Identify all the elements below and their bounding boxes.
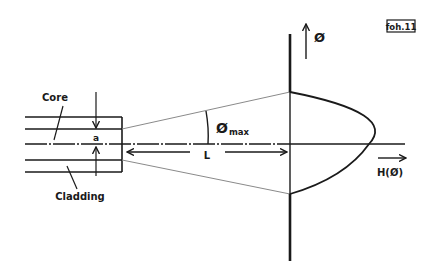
cladding-leader-line (67, 166, 77, 189)
cone-upper-ray (122, 92, 290, 129)
core-leader-line (54, 106, 63, 140)
horizontal-axis-label: H(Ø) (377, 167, 403, 178)
figure-tag: foh.11 (386, 20, 417, 32)
distance-label: L (204, 150, 211, 161)
vertical-axis-label: Ø (314, 30, 325, 45)
angle-arc (206, 111, 208, 144)
cladding-label: Cladding (55, 191, 105, 202)
angle-subscript: max (229, 127, 250, 137)
cone-lower-ray (122, 160, 290, 194)
core-radius-label: a (93, 133, 99, 143)
figure-tag-label: foh.11 (386, 22, 417, 32)
acceptance-cone (122, 92, 290, 194)
far-field-profile-curve (290, 92, 375, 194)
fiber-acceptance-diagram: foh.11 Ø H(Ø) L Ø max a Core (0, 0, 442, 277)
core-label: Core (42, 92, 68, 103)
angle-symbol: Ø (216, 120, 228, 136)
